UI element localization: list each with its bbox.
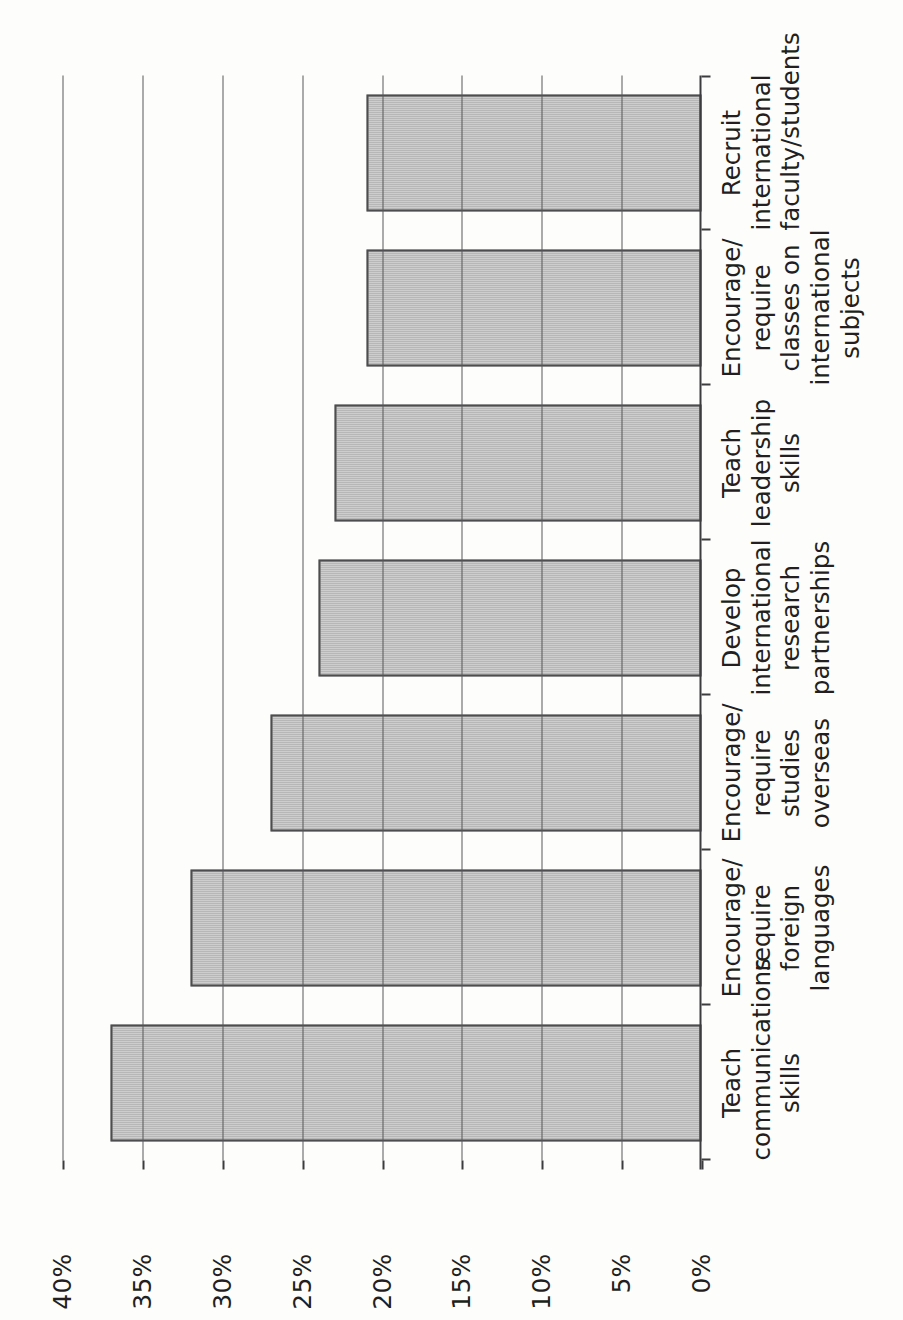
value-axis-tick: [541, 1160, 543, 1169]
plot-area: [62, 75, 701, 1160]
value-axis-tick: [62, 1160, 64, 1169]
value-axis-tick-label: 0%: [687, 1253, 716, 1320]
value-axis-tick-label: 20%: [367, 1253, 396, 1320]
value-axis-tick-label: 30%: [207, 1253, 236, 1320]
bar[interactable]: [190, 869, 701, 987]
category-separator-tick: [701, 538, 710, 540]
scanned-page: 0%5%10%15%20%25%30%35%40% Teach communic…: [0, 0, 903, 1320]
category-axis-label: Encourage/ require studies overseas: [716, 695, 835, 850]
bar[interactable]: [270, 714, 701, 832]
value-axis-tick: [621, 1160, 623, 1169]
category-axis-label: Encourage/ require foreign languages: [716, 850, 835, 1005]
category-axis-label: Develop international research partnersh…: [716, 540, 835, 695]
value-axis-tick-label: 15%: [447, 1253, 476, 1320]
gridline: [541, 75, 542, 1160]
bar[interactable]: [318, 559, 701, 677]
bar-chart: 0%5%10%15%20%25%30%35%40% Teach communic…: [0, 0, 903, 1320]
category-separator-tick: [701, 693, 710, 695]
bar[interactable]: [334, 404, 701, 522]
value-axis-tick: [461, 1160, 463, 1169]
category-separator-tick: [701, 383, 710, 385]
value-axis-tick-label: 5%: [607, 1253, 636, 1320]
bar[interactable]: [110, 1024, 701, 1142]
category-axis-end-tick: [701, 75, 710, 77]
category-separator-tick: [701, 228, 710, 230]
gridline: [222, 75, 223, 1160]
value-axis-tick: [701, 1160, 703, 1169]
bar[interactable]: [366, 94, 701, 212]
value-axis-tick: [382, 1160, 384, 1169]
category-axis-label: Teach communications skills: [716, 1005, 805, 1160]
bar[interactable]: [366, 249, 701, 367]
value-axis-tick-label: 35%: [127, 1253, 156, 1320]
category-axis-label: Recruit international faculty/students: [716, 75, 805, 230]
gridline: [302, 75, 303, 1160]
value-axis-tick-label: 25%: [287, 1253, 316, 1320]
value-axis-tick-label: 40%: [48, 1253, 77, 1320]
value-axis-tick: [302, 1160, 304, 1169]
rotated-chart-wrapper: 0%5%10%15%20%25%30%35%40% Teach communic…: [0, 0, 903, 1320]
category-separator-tick: [701, 1003, 710, 1005]
gridline: [382, 75, 383, 1160]
category-axis-label: Encourage/ require classes on internatio…: [716, 230, 864, 385]
gridline: [142, 75, 143, 1160]
value-axis-tick: [222, 1160, 224, 1169]
value-axis-tick-label: 10%: [527, 1253, 556, 1320]
gridline: [62, 75, 63, 1160]
gridline: [621, 75, 622, 1160]
category-separator-tick: [701, 848, 710, 850]
gridline: [461, 75, 462, 1160]
value-axis-tick: [142, 1160, 144, 1169]
category-axis-label: Teach leadership skills: [716, 385, 805, 540]
